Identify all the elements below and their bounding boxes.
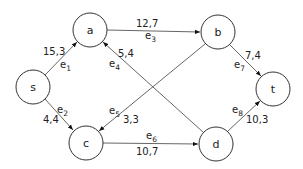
edge-e5-name: e5 [109,105,120,119]
edge-e4-value: 5,4 [118,48,134,59]
node-c: c [69,126,103,160]
node-t: t [256,72,290,106]
edge-e3 [107,30,200,32]
node-s: s [16,70,50,104]
edge-e7-value: 7,4 [245,50,261,61]
node-b-label: b [215,26,222,39]
node-a: a [73,13,107,47]
node-d: d [199,127,233,161]
node-s-label: s [30,81,36,94]
edge-e6 [103,143,198,144]
edge-e1-name: e1 [60,59,71,73]
node-d-label: d [213,138,220,151]
edge-e6-name: e6 [146,130,157,144]
node-b: b [201,15,235,49]
edge-e7-name: e7 [234,59,245,73]
edge-e5-value: 3,3 [123,114,139,125]
edge-e4-name: e4 [109,58,120,72]
edge-e6-value: 10,7 [136,146,158,157]
edge-e3-value: 12,7 [136,18,158,29]
node-a-label: a [87,24,94,37]
edge-e1-value: 15,3 [43,46,65,57]
flow-network-diagram: 15,3 e1 e2 4,4 12,7 e3 5,4 e4 e5 3,3 e6 … [0,0,303,169]
edges [45,30,261,144]
edge-e8-value: 10,3 [246,114,268,125]
edge-e3-name: e3 [145,30,156,44]
node-t-label: t [271,83,276,96]
edge-e8-name: e8 [232,104,243,118]
edge-e2-value: 4,4 [43,114,59,125]
node-c-label: c [83,137,89,150]
